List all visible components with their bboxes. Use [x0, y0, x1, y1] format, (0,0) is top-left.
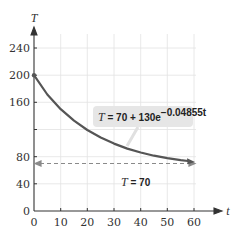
chart-canvas: 0 10 20 30 40 50 60 0 40 80 160 200 240 …: [0, 0, 239, 238]
y-tick-label: 80: [16, 151, 30, 164]
x-tick-label: 60: [187, 216, 201, 229]
y-tick-labels: 0 40 80 160 200 240: [9, 42, 30, 218]
x-tick-label: 10: [54, 216, 68, 229]
y-axis-label: T: [31, 11, 39, 25]
x-tick-labels: 0 10 20 30 40 50 60: [31, 216, 202, 229]
asymptote-label: T = 70: [121, 175, 151, 189]
x-tick-label: 20: [80, 216, 94, 229]
y-tick-label: 0: [23, 205, 30, 218]
x-tick-label: 50: [160, 216, 174, 229]
x-tick-label: 0: [31, 216, 38, 229]
y-tick-label: 240: [9, 42, 30, 55]
curve-equation-label: T = 70 + 130e−0.04855t: [93, 106, 207, 146]
x-tick-label: 30: [107, 216, 121, 229]
x-axis-label: t: [226, 204, 230, 218]
curve-start-point: [32, 73, 36, 77]
y-tick-label: 160: [9, 96, 30, 109]
y-tick-label: 200: [9, 69, 30, 82]
asymptote-line: [35, 161, 195, 166]
y-tick-label: 40: [16, 178, 30, 191]
x-tick-label: 40: [134, 216, 148, 229]
